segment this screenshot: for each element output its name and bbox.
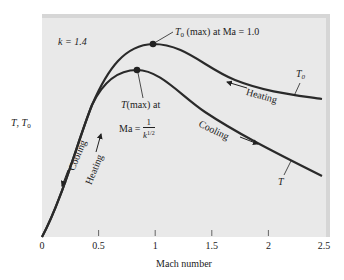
heating-up-arrow-icon (96, 134, 101, 152)
x-tick-1: 1 (153, 240, 158, 251)
t0-max-annotation: T0 (max) at Ma = 1.0 (175, 26, 259, 39)
fraction: 1k1/2 (143, 117, 155, 140)
k-parameter-label: k = 1.4 (58, 36, 87, 47)
y-label-t0-sub: 0 (27, 122, 31, 130)
x-tick-0-5: 0.5 (92, 240, 105, 251)
x-tick-2: 2 (266, 240, 271, 251)
t0-curve-subscript: 0 (302, 73, 306, 81)
y-axis-label: T, T0 (11, 117, 31, 130)
fraction-denominator: k1/2 (143, 128, 155, 140)
chart-canvas (0, 0, 344, 280)
mach-eq: Ma = (119, 123, 143, 134)
t0-max-marker (150, 41, 157, 48)
exponent: 1/2 (147, 130, 155, 136)
x-tick-0: 0 (40, 240, 45, 251)
t0-max-leader (156, 32, 173, 42)
t-curve-leader (284, 161, 291, 175)
k-value: k = 1.4 (58, 36, 87, 47)
t-max-leader (138, 73, 143, 98)
x-tick-1-5: 1.5 (206, 240, 219, 251)
t0-max-text: (max) at Ma = 1.0 (184, 26, 259, 37)
t-max-mach-formula: Ma = 1k1/2 (119, 117, 155, 140)
t0-curve-leader (294, 83, 300, 96)
t0-curve-label: T0 (296, 68, 305, 81)
t-max-marker (134, 67, 141, 74)
x-tick-2-5: 2.5 (318, 240, 331, 251)
t-max-text: (max) at (127, 99, 161, 110)
x-axis-label: Mach number (156, 258, 212, 269)
t-max-annotation: T(max) at (121, 99, 160, 110)
fraction-numerator: 1 (143, 117, 155, 128)
t-curve (42, 70, 322, 237)
x-axis-ticks (99, 230, 269, 236)
t-curve-label: T (278, 176, 284, 187)
